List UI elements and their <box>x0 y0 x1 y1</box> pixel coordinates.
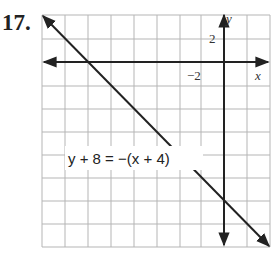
equation-label: y + 8 = −(x + 4) <box>68 150 170 167</box>
x-axis-label: x <box>254 68 261 83</box>
y-tick-label: 2 <box>209 31 216 46</box>
coordinate-graph: y + 8 = −(x + 4) y 2 x −2 <box>0 0 274 259</box>
y-axis-label: y <box>224 11 232 26</box>
x-tick-label: −2 <box>187 68 201 83</box>
graph-line <box>43 16 269 246</box>
